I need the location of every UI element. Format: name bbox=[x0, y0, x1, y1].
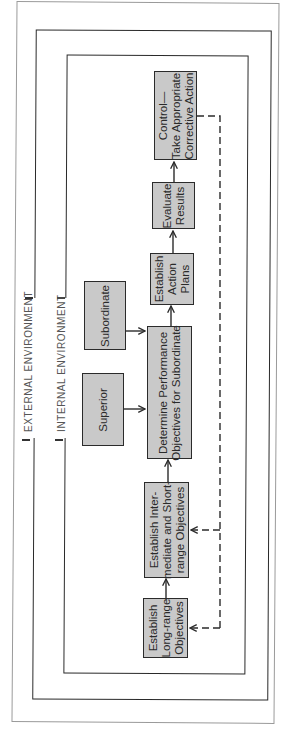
node-intermediate-objectives-label: Establish Inter- mediate and Short- rang… bbox=[147, 481, 186, 579]
node-long-range-objectives: Establish Long-range Objectives bbox=[143, 598, 188, 658]
node-action-plans: Establish Action Plans bbox=[150, 253, 194, 305]
node-control-label: Control— Take Appropriate Corrective Act… bbox=[156, 72, 195, 159]
node-intermediate-objectives: Establish Inter- mediate and Short- rang… bbox=[144, 482, 189, 578]
node-evaluate-results-label: Evaluate Results bbox=[161, 183, 187, 228]
node-action-plans-label: Establish Action Plans bbox=[153, 256, 192, 303]
node-subordinate-label: Subordinate bbox=[99, 284, 112, 346]
node-evaluate-results: Evaluate Results bbox=[152, 182, 195, 229]
feedback-dashed-line bbox=[197, 116, 220, 628]
node-long-range-objectives-label: Establish Long-range Objectives bbox=[146, 599, 185, 658]
node-superior-label: Superior bbox=[97, 388, 110, 431]
node-determine-objectives: Determine Performance Objectives for Sub… bbox=[147, 326, 192, 459]
node-superior: Superior bbox=[82, 373, 124, 446]
node-determine-objectives-label: Determine Performance Objectives for Sub… bbox=[157, 325, 183, 461]
node-control: Control— Take Appropriate Corrective Act… bbox=[154, 71, 197, 160]
node-subordinate: Subordinate bbox=[84, 281, 126, 350]
mbo-process-diagram: EXTERNAL ENVIRONMENT INTERNAL ENVIRONMEN… bbox=[0, 0, 286, 733]
